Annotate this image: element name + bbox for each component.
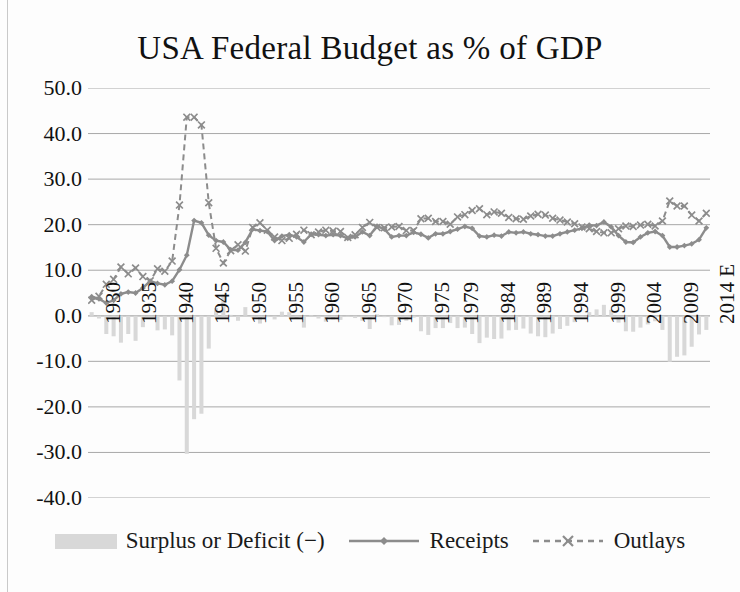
x-axis-tick-label: 1975 <box>430 282 455 324</box>
x-axis-tick-label: 1979 <box>459 282 484 324</box>
x-axis-tick-label: 1930 <box>101 282 126 324</box>
legend-label-outlays: Outlays <box>614 528 686 554</box>
legend-dashed-x-icon <box>531 533 605 549</box>
x-axis-tick-label: 1970 <box>393 282 418 324</box>
x-axis-tick-label: 1965 <box>357 282 382 324</box>
x-axis-tick-label: 2004 <box>642 282 667 324</box>
legend-label-receipts: Receipts <box>430 528 509 554</box>
x-axis-tick-label: 1989 <box>532 282 557 324</box>
x-axis-tick-labels: 1930193519401945195019551960196519701975… <box>0 0 740 592</box>
x-axis-tick-label: 1960 <box>320 282 345 324</box>
x-axis-tick-label: 1994 <box>569 282 594 324</box>
chart-legend: Surplus or Deficit (−) Receipts Outlays <box>0 528 740 554</box>
x-axis-tick-label: 1984 <box>496 282 521 324</box>
x-axis-tick-label: 1935 <box>137 282 162 324</box>
x-axis-tick-label: 1945 <box>210 282 235 324</box>
x-axis-tick-label: 2009 <box>679 282 704 324</box>
legend-bar-swatch-icon <box>55 534 117 549</box>
legend-item-surplus-deficit: Surplus or Deficit (−) <box>55 528 325 554</box>
x-axis-tick-label: 1999 <box>606 282 631 324</box>
legend-line-diamond-icon <box>347 533 421 549</box>
x-axis-tick-label: 1955 <box>284 282 309 324</box>
legend-label-surplus-deficit: Surplus or Deficit (−) <box>126 528 325 554</box>
legend-item-receipts: Receipts <box>347 528 509 554</box>
x-axis-tick-label: 1950 <box>247 282 272 324</box>
x-axis-tick-label: 2014 E <box>715 264 740 324</box>
legend-item-outlays: Outlays <box>531 528 686 554</box>
x-axis-tick-label: 1940 <box>174 282 199 324</box>
chart-figure: USA Federal Budget as % of GDP 50.040.03… <box>0 0 740 592</box>
